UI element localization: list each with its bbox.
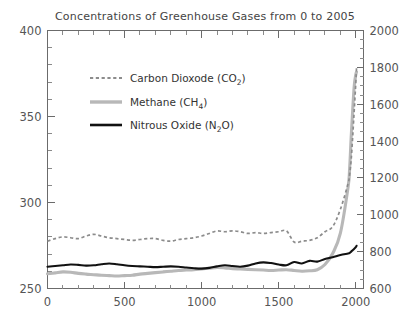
- y-right-tick-label: 600: [370, 282, 392, 296]
- y-right-tick-label: 1000: [370, 208, 399, 222]
- y-right-tick-label: 1200: [370, 171, 399, 185]
- chart-title: Concentrations of Greenhouse Gases from …: [55, 10, 355, 23]
- x-tick-label: 2000: [341, 295, 370, 309]
- legend-label-nitrous-oxide-tail: O): [221, 119, 233, 131]
- chart-figure: Concentrations of Greenhouse Gases from …: [0, 0, 410, 324]
- greenhouse-gas-line-chart: Concentrations of Greenhouse Gases from …: [0, 0, 410, 324]
- legend-label-nitrous-oxide-text: Nitrous Oxide (N: [130, 119, 217, 131]
- x-tick-label: 0: [44, 295, 51, 309]
- legend-label-methane-text: Methane (CH: [130, 96, 199, 108]
- legend-label-methane-tail: ): [203, 96, 207, 108]
- y-right-tick-label: 1800: [370, 61, 399, 75]
- y-left-tick-label: 400: [20, 24, 42, 38]
- y-right-tick-label: 2000: [370, 24, 399, 38]
- x-tick-label: 500: [114, 295, 136, 309]
- x-tick-label: 1000: [187, 295, 216, 309]
- legend-label-carbon-dioxide-text: Carbon Dioxode (CO: [130, 72, 237, 84]
- y-right-tick-label: 800: [370, 245, 392, 259]
- y-right-tick-label: 1400: [370, 135, 399, 149]
- y-right-tick-label: 1600: [370, 98, 399, 112]
- y-left-tick-label: 350: [20, 110, 42, 124]
- y-left-tick-label: 250: [20, 282, 42, 296]
- legend-label-carbon-dioxide-tail: ): [242, 72, 246, 84]
- y-left-tick-label: 300: [20, 196, 42, 210]
- x-tick-label: 1500: [264, 295, 293, 309]
